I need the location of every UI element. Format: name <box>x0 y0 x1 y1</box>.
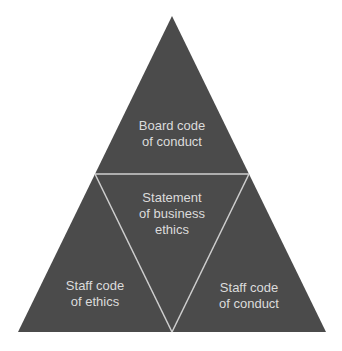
ethics-pyramid-diagram: Board code of conduct Statement of busin… <box>0 0 342 351</box>
segment-bottom-right-line-2: of conduct <box>219 296 279 312</box>
segment-bottom-left-label: Staff code of ethics <box>66 278 124 310</box>
segment-top-line-1: Board code <box>139 118 206 134</box>
segment-center-line-1: Statement <box>139 190 205 206</box>
segment-bottom-right-line-1: Staff code <box>219 280 279 296</box>
segment-bottom-left-line-1: Staff code <box>66 278 124 294</box>
segment-center-line-3: ethics <box>139 222 205 238</box>
segment-top-label: Board code of conduct <box>139 118 206 150</box>
pyramid-shape <box>0 0 342 351</box>
segment-center-line-2: of business <box>139 206 205 222</box>
segment-top-line-2: of conduct <box>139 134 206 150</box>
segment-center-label: Statement of business ethics <box>139 190 205 238</box>
segment-bottom-left-line-2: of ethics <box>66 294 124 310</box>
segment-bottom-right-label: Staff code of conduct <box>219 280 279 312</box>
